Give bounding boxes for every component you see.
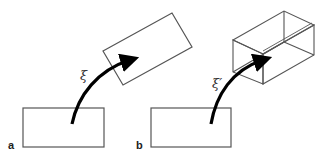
diagram-figure: ξ a ξ′ b xyxy=(0,0,329,162)
source-rectangle-b xyxy=(151,108,231,147)
panel-label-b: b xyxy=(136,139,143,151)
xi-prime-label: ξ′ xyxy=(212,76,222,91)
panel-label-a: a xyxy=(8,139,15,151)
panel-a: ξ a xyxy=(8,13,192,151)
wireframe-box xyxy=(233,11,314,84)
xi-label: ξ xyxy=(80,68,88,83)
source-rectangle-a xyxy=(23,108,104,147)
rotated-rectangle xyxy=(103,13,192,85)
panel-b: ξ′ b xyxy=(136,11,314,151)
